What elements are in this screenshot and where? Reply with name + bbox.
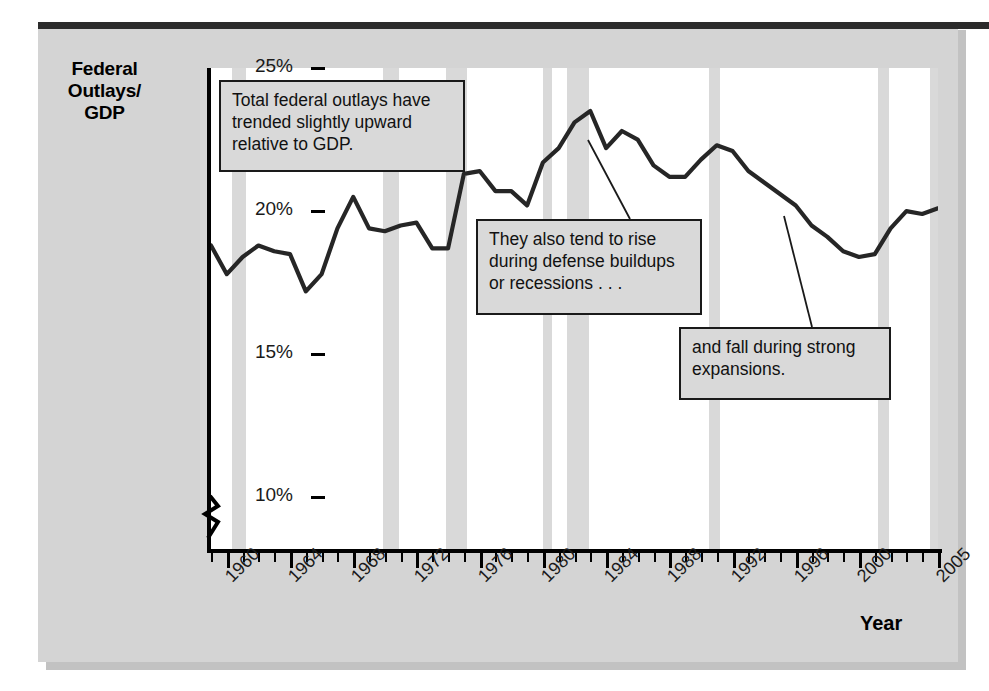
- y-tick-label: 20%: [223, 198, 293, 220]
- callout-1-line-3: relative to GDP.: [232, 133, 453, 155]
- annotation-callout-1: Total federal outlays have trended sligh…: [219, 80, 465, 172]
- callout-2-line-1: They also tend to rise: [489, 228, 690, 250]
- callout-2-line-3: or recessions . . .: [489, 272, 690, 294]
- y-tick-mark: [311, 496, 325, 499]
- x-tick-minor: [401, 553, 403, 562]
- callout-3-line-1: and fall during strong: [692, 336, 879, 358]
- x-tick-minor: [464, 553, 466, 562]
- x-tick-minor: [590, 553, 592, 562]
- y-tick-mark: [311, 210, 325, 213]
- x-tick-minor: [654, 553, 656, 562]
- callout-3-line-2: expansions.: [692, 358, 879, 380]
- y-tick-label: 25%: [223, 55, 293, 77]
- callout-2-line-2: during defense buildups: [489, 250, 690, 272]
- x-tick-minor: [337, 553, 339, 562]
- x-axis-tick-labels: 1960196419681972197619801984198819921996…: [211, 572, 971, 642]
- annotation-callout-3: and fall during strong expansions.: [679, 327, 891, 400]
- x-tick-minor: [527, 553, 529, 562]
- callout-1-line-1: Total federal outlays have: [232, 89, 453, 111]
- x-tick-minor: [843, 553, 845, 562]
- x-tick-minor: [780, 553, 782, 562]
- y-tick-mark: [311, 67, 325, 70]
- chart-figure: Federal Outlays/ GDP 10%15%20%25% 196019…: [0, 0, 989, 691]
- x-tick-minor: [717, 553, 719, 562]
- x-axis-title: Year: [860, 612, 902, 635]
- y-tick-label: 10%: [223, 484, 293, 506]
- x-tick-minor: [906, 553, 908, 562]
- callout-1-line-2: trended slightly upward: [232, 111, 453, 133]
- y-axis-ticks: 10%15%20%25%: [118, 0, 208, 600]
- y-tick-label: 15%: [223, 341, 293, 363]
- y-tick-mark: [311, 353, 325, 356]
- x-tick-minor: [211, 553, 213, 562]
- annotation-callout-2: They also tend to rise during defense bu…: [476, 219, 702, 315]
- x-tick-minor: [274, 553, 276, 562]
- x-tick-minor: [922, 553, 924, 562]
